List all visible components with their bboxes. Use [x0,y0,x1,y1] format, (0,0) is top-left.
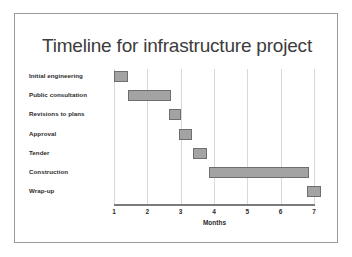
gridline-month-6 [281,69,282,204]
x-tick-label: 4 [207,208,221,215]
x-tick-label: 3 [174,208,188,215]
x-tick-label: 7 [307,208,321,215]
task-label: Initial engineering [29,72,113,79]
task-label: Public consultation [29,91,113,98]
x-tick-label: 5 [240,208,254,215]
x-axis-title: Months [114,219,315,226]
x-axis-line [114,204,315,206]
x-tick-label: 1 [107,208,121,215]
page-title: Timeline for infrastructure project [15,35,339,57]
gantt-bar [193,148,206,159]
x-tick-label: 2 [140,208,154,215]
gantt-bar [128,90,171,101]
task-label: Revisions to plans [29,110,113,117]
slide-frame: Timeline for infrastructure project Mont… [14,13,338,243]
task-label: Wrap-up [29,187,113,194]
gridline-month-5 [247,69,248,204]
gantt-bar [209,167,309,178]
gridline-month-7 [314,69,315,204]
x-tick-label: 6 [274,208,288,215]
gantt-bar [179,129,192,140]
gantt-bar [114,71,128,82]
gantt-bar [307,186,322,197]
gridline-month-4 [214,69,215,204]
slide-screenshot: Timeline for infrastructure project Mont… [0,0,352,257]
task-label: Construction [29,168,113,175]
gridline-month-1 [114,69,115,204]
task-label: Tender [29,149,113,156]
gantt-bar [169,109,181,120]
task-label: Approval [29,130,113,137]
